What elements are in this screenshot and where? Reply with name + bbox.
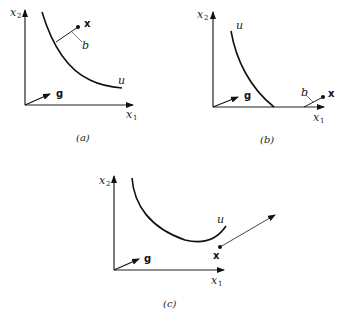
- x1-axis-label: x: [126, 108, 133, 121]
- x2-axis-sub: 2: [106, 180, 110, 188]
- x1-axis-sub: 1: [133, 114, 137, 122]
- x1-axis-label: x: [211, 274, 218, 287]
- b-leader: [72, 32, 82, 42]
- g-vector: [25, 94, 50, 105]
- x2-axis-label: x: [99, 174, 106, 187]
- caption-c: (c): [163, 298, 177, 309]
- g-vector-label: g: [56, 88, 63, 99]
- g-vector-label: g: [244, 90, 251, 101]
- caption-b: (b): [260, 134, 274, 145]
- indifference-curve-u: [231, 31, 274, 107]
- caption-a: (a): [76, 132, 90, 143]
- g-vector: [114, 259, 139, 270]
- x2-axis-label: x: [197, 8, 204, 21]
- point-x: [76, 25, 80, 29]
- panel-a: x 2 x 1 g u x b (a): [10, 6, 137, 143]
- diagram-canvas: x 2 x 1 g u x b (a) x 2 x 1 g u x b (b): [0, 0, 341, 313]
- point-x-label: x: [328, 88, 335, 99]
- point-x: [218, 245, 222, 249]
- segment-b-label: b: [301, 86, 308, 99]
- x2-axis-sub: 2: [17, 12, 21, 20]
- x2-axis-sub: 2: [204, 14, 208, 22]
- panel-c: x 2 x 1 g u x (c): [99, 174, 275, 309]
- panel-b: x 2 x 1 g u x b (b): [197, 8, 335, 145]
- x1-axis-sub: 1: [320, 117, 324, 125]
- x1-axis-sub: 1: [218, 280, 222, 288]
- x2-axis-label: x: [10, 6, 17, 19]
- segment-b-label: b: [82, 39, 89, 52]
- point-x-label: x: [84, 18, 91, 29]
- point-x: [321, 95, 325, 99]
- point-x-label: x: [213, 250, 220, 261]
- g-vector-label: g: [144, 253, 151, 264]
- indifference-curve-u: [132, 178, 226, 242]
- curve-label-u: u: [118, 74, 125, 87]
- x1-axis-label: x: [313, 111, 320, 124]
- curve-label-u: u: [217, 213, 224, 226]
- direction-vector: [220, 215, 275, 247]
- g-vector: [213, 97, 238, 107]
- curve-label-u: u: [236, 19, 243, 32]
